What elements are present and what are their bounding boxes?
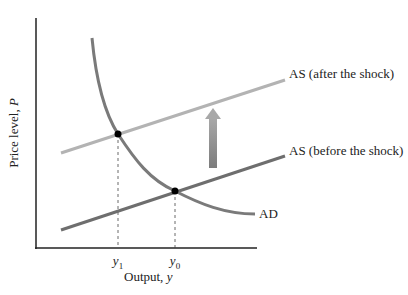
as-before-label: AS (before the shock) [289,143,403,159]
equilibrium-point-after [115,131,122,138]
tick-y0: y0 [170,253,180,271]
tick-y1: y1 [113,253,123,271]
equilibrium-point-before [172,188,179,195]
shift-arrow-icon [205,108,221,168]
y-axis-label: Price level, P [6,98,22,168]
ad-curve [92,38,255,214]
as-after-label: AS (after the shock) [289,66,394,82]
ad-label: AD [259,206,278,222]
x-axis-label: Output, y [124,269,172,285]
as-after-curve [61,80,285,153]
